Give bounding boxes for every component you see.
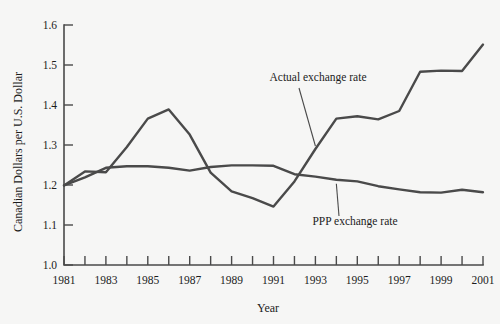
x-tick-label: 1995 [346, 274, 369, 286]
x-axis-tick-labels: 1981198319851987198919911993199519971999… [53, 274, 495, 286]
annotation-label: PPP exchange rate [312, 215, 397, 228]
series-line-ppp-exchange-rate [64, 165, 483, 192]
x-tick-label: 2001 [472, 274, 495, 286]
x-tick-label: 1987 [178, 274, 201, 286]
y-tick-label: 1.2 [43, 179, 58, 191]
y-tick-label: 1.6 [43, 19, 58, 31]
x-tick-label: 1989 [220, 274, 243, 286]
x-tick-label: 1985 [136, 274, 159, 286]
y-tick-label: 1.3 [43, 139, 58, 151]
y-tick-label: 1.5 [43, 59, 58, 71]
y-axis-title: Canadian Dollars per U.S. Dollar [11, 72, 25, 232]
chart-annotations: Actual exchange ratePPP exchange rate [269, 71, 397, 228]
annotation-leader-line [336, 184, 339, 216]
y-axis-tick-labels: 1.01.11.21.31.41.51.6 [43, 19, 58, 271]
x-tick-label: 1997 [388, 274, 411, 286]
annotation-leader-line [299, 88, 315, 146]
x-axis-title: Year [257, 301, 279, 315]
series-line-actual-exchange-rate [64, 45, 483, 207]
chart-figure: 1.01.11.21.31.41.51.6 198119831985198719… [0, 0, 500, 324]
x-tick-label: 1993 [304, 274, 327, 286]
y-tick-label: 1.4 [43, 99, 58, 111]
annotation-label: Actual exchange rate [269, 71, 366, 84]
x-tick-label: 1991 [262, 274, 285, 286]
y-axis-ticks [64, 25, 73, 265]
y-tick-label: 1.0 [43, 259, 58, 271]
exchange-rate-line-chart: 1.01.11.21.31.41.51.6 198119831985198719… [0, 0, 500, 324]
x-tick-label: 1999 [430, 274, 453, 286]
chart-series [64, 45, 483, 207]
x-tick-label: 1983 [94, 274, 117, 286]
y-tick-label: 1.1 [43, 219, 58, 231]
x-tick-label: 1981 [53, 274, 76, 286]
x-axis-ticks [64, 256, 483, 265]
